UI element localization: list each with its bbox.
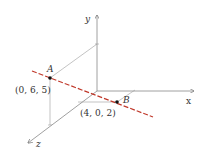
guide-a-y — [50, 44, 97, 78]
point-a — [48, 76, 52, 80]
diagram-canvas: y x z A (0, 6, 5) B (4, 0, 2) — [0, 0, 210, 150]
z-axis-label: z — [35, 139, 41, 149]
point-a-label: A — [46, 64, 54, 74]
point-a-coords: (0, 6, 5) — [15, 85, 51, 95]
point-b-coords: (4, 0, 2) — [80, 108, 116, 118]
y-axis-label: y — [84, 14, 91, 24]
point-b — [115, 100, 119, 104]
x-axis-label: x — [186, 96, 191, 106]
point-b-label: B — [122, 95, 130, 105]
